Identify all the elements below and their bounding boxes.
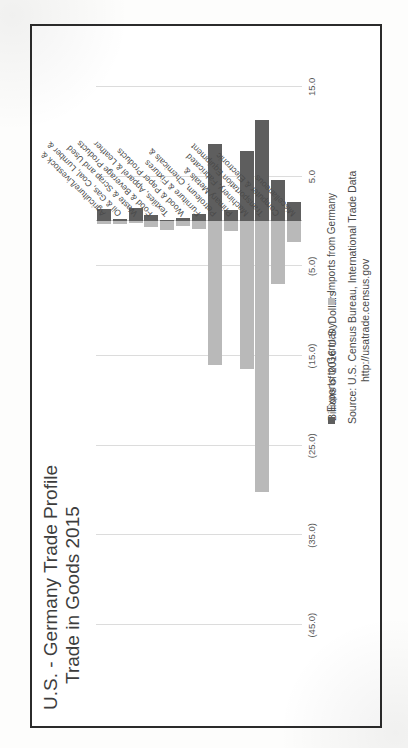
bar-segment-imports: [144, 221, 158, 226]
bar-segment-exports: [113, 219, 127, 222]
legend-label-imports: Imports from Germany: [326, 193, 337, 293]
chart-legend: Exports to Germany Imports from Germany: [326, 193, 337, 424]
x-tick-label: (15.0): [306, 344, 317, 369]
figure-frame: U.S. - Germany Trade Profile Trade in Go…: [30, 24, 382, 728]
bar-segment-imports: [97, 221, 111, 224]
chart-title-line2: Trade in Goods 2015: [62, 465, 84, 684]
bar-row: [192, 42, 206, 670]
bar-series-container: [96, 42, 302, 670]
legend-swatch-exports-icon: [328, 417, 335, 424]
bar-row: [240, 42, 254, 670]
bar-segment-imports: [240, 221, 254, 369]
bar-segment-imports: [176, 221, 190, 225]
legend-item-imports: Imports from Germany: [326, 193, 337, 305]
legend-label-exports: Exports to Germany: [326, 323, 337, 412]
plot-area: Agriculture/Livestock &Oil & Gas, Coal, …: [96, 42, 302, 670]
x-axis-ticks: 15.05.0(5.0)(15.0)(25.0)(35.0)(45.0): [306, 42, 322, 670]
bar-segment-imports: [287, 221, 301, 242]
bar-segment-imports: [255, 221, 269, 492]
bar-row: [160, 42, 174, 670]
legend-item-exports: Exports to Germany: [326, 323, 337, 424]
x-tick-label: (35.0): [306, 523, 317, 548]
x-tick-label: (5.0): [306, 257, 317, 277]
chart-title-block: U.S. - Germany Trade Profile Trade in Go…: [40, 465, 85, 710]
bar-row: [176, 42, 190, 670]
bar-row: [97, 42, 111, 670]
bar-row: [287, 42, 301, 670]
bar-segment-exports: [176, 218, 190, 222]
chart-title-line1: U.S. - Germany Trade Profile: [40, 465, 62, 710]
legend-swatch-imports-icon: [328, 298, 335, 305]
bar-row: [224, 42, 238, 670]
scanned-page: U.S. - Germany Trade Profile Trade in Go…: [0, 0, 408, 748]
x-tick-label: (25.0): [306, 433, 317, 458]
source-note: Source: U.S. Census Bureau, Internationa…: [346, 171, 373, 424]
x-tick-label: 5.0: [306, 170, 317, 183]
bar-segment-imports: [113, 221, 127, 224]
bar-segment-imports: [129, 221, 143, 223]
x-tick-label: (45.0): [306, 613, 317, 638]
chart-figure: U.S. - Germany Trade Profile Trade in Go…: [34, 28, 378, 724]
bar-segment-imports: [192, 221, 206, 228]
source-url[interactable]: http://usatrade.census.gov: [359, 171, 372, 382]
bar-row: [144, 42, 158, 670]
bar-row: [255, 42, 269, 670]
source-line1: Source: U.S. Census Bureau, Internationa…: [346, 171, 358, 424]
bar-row: [113, 42, 127, 670]
bar-segment-imports: [271, 221, 285, 284]
x-tick-label: 15.0: [306, 78, 317, 97]
bar-row: [208, 42, 222, 670]
bar-row: [271, 42, 285, 670]
bar-segment-imports: [208, 221, 222, 365]
bar-segment-imports: [160, 221, 174, 230]
bar-segment-imports: [224, 221, 238, 231]
rotated-figure: U.S. - Germany Trade Profile Trade in Go…: [34, 28, 378, 724]
bar-segment-exports: [160, 220, 174, 222]
bar-row: [129, 42, 143, 670]
